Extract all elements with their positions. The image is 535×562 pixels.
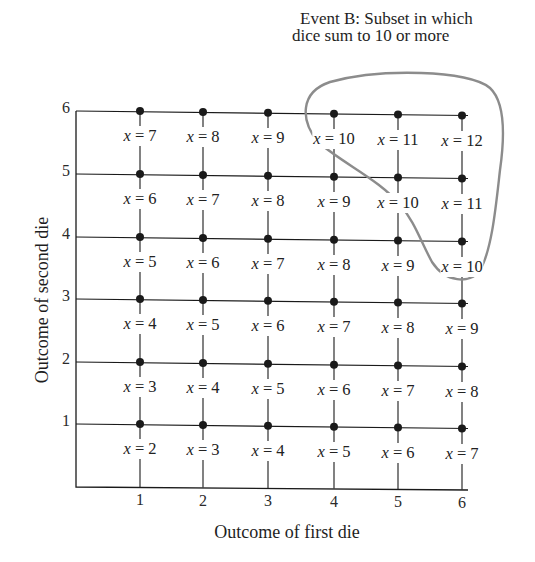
- sum-label: x = 4: [122, 314, 157, 334]
- sum-label: x = 8: [380, 318, 415, 338]
- outcome-node: [136, 233, 144, 241]
- sum-label: x = 9: [250, 128, 285, 148]
- outcome-node: [394, 299, 402, 307]
- outcome-node: [264, 422, 272, 430]
- sum-label: x = 6: [250, 316, 285, 336]
- outcome-node: [199, 234, 207, 242]
- sum-label: x = 9: [380, 256, 415, 276]
- outcome-node: [136, 107, 144, 115]
- outcome-node: [458, 425, 466, 433]
- sum-label: x = 2: [122, 439, 157, 459]
- row-line-1: [76, 424, 468, 429]
- sum-label: x = 8: [316, 255, 351, 275]
- row-line-3: [76, 299, 468, 304]
- outcome-node: [394, 237, 402, 245]
- sum-label: x = 7: [380, 381, 415, 401]
- sum-label: x = 3: [185, 440, 220, 460]
- outcome-node: [264, 235, 272, 243]
- y-tick-6: 6: [62, 99, 70, 117]
- sum-label: x = 6: [316, 380, 351, 400]
- x-tick-2: 2: [199, 492, 207, 510]
- row-line-6: [76, 111, 468, 116]
- outcome-node: [199, 359, 207, 367]
- sum-label: x = 9: [316, 192, 351, 212]
- sum-label: x = 5: [250, 379, 285, 399]
- y-axis-label: Outcome of second die: [32, 217, 53, 383]
- sum-label: x = 7: [122, 126, 157, 146]
- sum-label: x = 12: [440, 131, 483, 151]
- y-tick-1: 1: [62, 412, 70, 430]
- outcome-node: [199, 421, 207, 429]
- outcome-node: [458, 112, 466, 120]
- outcome-node: [394, 424, 402, 432]
- sum-label: x = 10: [376, 193, 419, 213]
- sum-label: x = 5: [185, 315, 220, 335]
- sum-label: x = 10: [440, 257, 483, 277]
- sum-label: x = 7: [250, 254, 285, 274]
- outcome-node: [394, 362, 402, 370]
- sum-label: x = 6: [122, 189, 157, 209]
- sum-label: x = 6: [380, 443, 415, 463]
- outcome-node: [330, 173, 338, 181]
- row-line-4: [76, 237, 468, 242]
- sum-label: x = 9: [444, 319, 479, 339]
- x-tick-6: 6: [458, 494, 466, 512]
- outcome-node: [330, 423, 338, 431]
- sum-label: x = 11: [441, 194, 484, 214]
- row-line-2: [76, 362, 468, 367]
- y-tick-5: 5: [62, 162, 70, 180]
- outcome-node: [330, 298, 338, 306]
- x-axis-label: Outcome of first die: [214, 522, 359, 543]
- axes-frame: [76, 111, 468, 490]
- outcome-node: [394, 111, 402, 119]
- sum-label: x = 6: [185, 253, 220, 273]
- sum-label: x = 3: [122, 377, 157, 397]
- sum-label: x = 8: [250, 191, 285, 211]
- sum-label: x = 8: [185, 127, 220, 147]
- sum-label: x = 7: [185, 190, 220, 210]
- sum-label: x = 8: [444, 382, 479, 402]
- outcome-node: [199, 296, 207, 304]
- outcome-node: [136, 295, 144, 303]
- x-tick-4: 4: [330, 493, 338, 511]
- annotation-line-2: dice sum to 10 or more: [292, 27, 473, 44]
- sum-label: x = 7: [444, 444, 479, 464]
- x-tick-5: 5: [394, 493, 402, 511]
- outcome-node: [136, 358, 144, 366]
- outcome-node: [264, 109, 272, 117]
- y-tick-4: 4: [62, 225, 70, 243]
- outcome-node: [199, 108, 207, 116]
- outcome-node: [458, 300, 466, 308]
- x-tick-1: 1: [136, 491, 144, 509]
- outcome-node: [394, 174, 402, 182]
- outcome-node: [458, 238, 466, 246]
- sum-label: x = 10: [312, 129, 355, 149]
- sum-label: x = 7: [316, 317, 351, 337]
- row-line-5: [76, 174, 468, 179]
- outcome-node: [458, 175, 466, 183]
- sum-label: x = 4: [185, 378, 220, 398]
- y-tick-3: 3: [62, 287, 70, 305]
- outcome-node: [330, 110, 338, 118]
- event-b-annotation: Event B: Subset in which dice sum to 10 …: [292, 10, 473, 44]
- outcome-node: [330, 236, 338, 244]
- outcome-node: [330, 361, 338, 369]
- outcome-node: [264, 360, 272, 368]
- outcome-node: [136, 170, 144, 178]
- sum-label: x = 4: [250, 441, 285, 461]
- sum-label: x = 5: [122, 252, 157, 272]
- annotation-line-1: Event B: Subset in which: [292, 10, 473, 27]
- y-tick-2: 2: [62, 350, 70, 368]
- x-tick-3: 3: [264, 492, 272, 510]
- outcome-node: [136, 420, 144, 428]
- sample-space-grid: [0, 0, 535, 562]
- outcome-node: [264, 297, 272, 305]
- outcome-node: [199, 171, 207, 179]
- sum-label: x = 5: [316, 442, 351, 462]
- sum-label: x = 11: [377, 130, 420, 150]
- outcome-node: [458, 363, 466, 371]
- outcome-node: [264, 172, 272, 180]
